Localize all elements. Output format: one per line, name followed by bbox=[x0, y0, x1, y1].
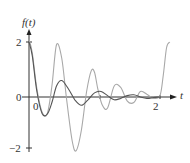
x-axis-arrow-icon bbox=[170, 95, 177, 100]
y-tick-label-neg2: −2 bbox=[9, 143, 21, 154]
series-light-curve bbox=[29, 39, 170, 151]
y-tick-label-0: 0 bbox=[16, 92, 22, 103]
y-axis-label: f(t) bbox=[22, 17, 35, 28]
x-axis-label: t bbox=[180, 90, 183, 101]
y-axis-arrow-icon bbox=[27, 29, 32, 35]
series-dark-curve bbox=[29, 42, 160, 116]
x-tick-label-origin: 0 bbox=[33, 101, 39, 112]
x-tick-label-2: 2 bbox=[153, 101, 159, 112]
y-tick-label-2: 2 bbox=[16, 37, 22, 48]
